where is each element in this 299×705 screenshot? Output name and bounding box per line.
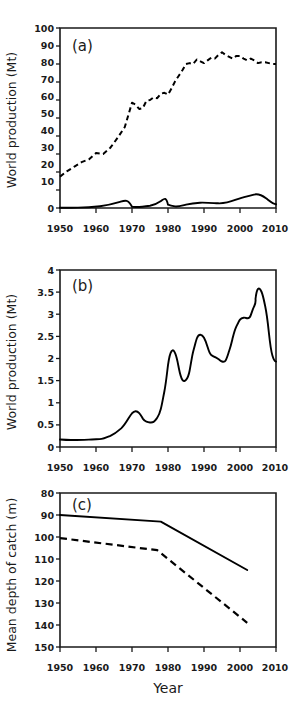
panel-a-xtick-1960: 1960	[83, 223, 110, 234]
panel-b-ytick-0p5: 0.5	[37, 419, 54, 430]
panel-c-ytick-90: 90	[41, 510, 55, 521]
panel-b-svg: World production (Mt) (b) 4 3.5 3 2.5 2 …	[0, 240, 299, 480]
panel-a-ytick-10: 10	[41, 176, 55, 187]
panel-a-series-solid	[60, 194, 276, 207]
panel-b-ytick-2p5: 2.5	[37, 331, 54, 342]
panel-b-xtick-2010: 2010	[262, 462, 289, 473]
panel-a-ytick-70: 70	[41, 74, 55, 85]
panel-b-ytick-1p5: 1.5	[37, 375, 54, 386]
panel-b-xtick-1990: 1990	[191, 462, 218, 473]
panel-a-ytick-90: 90	[41, 40, 55, 51]
panel-a-ytick-80: 80	[41, 57, 55, 68]
panel-c-xtick-1950: 1950	[47, 662, 74, 673]
panel-b-xtick-1950: 1950	[47, 462, 74, 473]
panel-c-svg: Mean depth of catch (m) (c) 80 90 100 11…	[0, 480, 299, 705]
panel-a-ytick-50: 50	[41, 108, 55, 119]
panel-b-series-solid	[60, 289, 276, 441]
panel-a-xtick-2010: 2010	[262, 223, 289, 234]
panel-c-ytick-80: 80	[41, 488, 55, 499]
panel-b-y-axis-title: World production (Mt)	[4, 294, 19, 430]
shared-x-axis-title: Year	[152, 680, 183, 696]
panel-a-xtick-1970: 1970	[119, 223, 146, 234]
panel-b-xtick-1980: 1980	[155, 462, 182, 473]
panel-b-xtick-1970: 1970	[119, 462, 146, 473]
panel-a-xtick-1990: 1990	[191, 223, 218, 234]
panel-a-y-axis-title: World production (Mt)	[4, 52, 19, 188]
panel-b-xtick-2000: 2000	[227, 462, 254, 473]
panel-b-label: (b)	[72, 277, 93, 295]
panel-a-ytick-100: 100	[34, 23, 54, 34]
panel-c-label: (c)	[72, 496, 92, 514]
panel-c-xtick-1990: 1990	[191, 662, 218, 673]
panel-a-plot-frame	[60, 28, 276, 208]
figure-container: World production (Mt) (a) 100 90 80 70 6…	[0, 0, 299, 705]
panel-c-xtick-2000: 2000	[227, 662, 254, 673]
panel-c: Mean depth of catch (m) (c) 80 90 100 11…	[0, 480, 299, 705]
panel-a-ytick-40: 40	[41, 125, 55, 136]
panel-b-ytick-4: 4	[47, 265, 54, 276]
panel-c-ytick-130: 130	[34, 598, 54, 609]
panel-b-xtick-1960: 1960	[83, 462, 110, 473]
panel-c-ytick-120: 120	[34, 576, 54, 587]
panel-a-ytick-0: 0	[47, 203, 54, 214]
panel-a-xtick-1950: 1950	[47, 223, 74, 234]
panel-b-ytick-3p5: 3.5	[37, 287, 54, 298]
panel-b: World production (Mt) (b) 4 3.5 3 2.5 2 …	[0, 240, 299, 480]
panel-a-ytick-20: 20	[41, 159, 55, 170]
panel-c-xtick-1960: 1960	[83, 662, 110, 673]
panel-c-series-dashed	[60, 538, 247, 623]
panel-b-plot-frame	[60, 270, 276, 447]
panel-c-xtick-1980: 1980	[155, 662, 182, 673]
panel-c-ytick-140: 140	[34, 620, 54, 631]
panel-a-ytick-60: 60	[41, 91, 55, 102]
panel-a-series-dashed	[60, 52, 276, 176]
panel-c-xtick-1970: 1970	[119, 662, 146, 673]
panel-c-ytick-110: 110	[34, 554, 54, 565]
panel-b-ytick-3: 3	[47, 309, 54, 320]
panel-c-ytick-150: 150	[34, 642, 54, 653]
panel-c-plot-frame	[60, 493, 276, 647]
panel-b-ytick-1: 1	[47, 397, 54, 408]
panel-a-ytick-30: 30	[41, 142, 55, 153]
panel-c-ytick-100: 100	[34, 532, 54, 543]
panel-c-y-axis-title: Mean depth of catch (m)	[4, 498, 19, 653]
panel-a-xtick-1980: 1980	[155, 223, 182, 234]
panel-a-svg: World production (Mt) (a) 100 90 80 70 6…	[0, 0, 299, 240]
panel-c-xtick-2010: 2010	[262, 662, 289, 673]
panel-a-xtick-2000: 2000	[227, 223, 254, 234]
panel-a-label: (a)	[72, 37, 93, 55]
panel-a: World production (Mt) (a) 100 90 80 70 6…	[0, 0, 299, 240]
panel-b-ytick-2: 2	[47, 353, 54, 364]
panel-b-ytick-0: 0	[47, 442, 54, 453]
